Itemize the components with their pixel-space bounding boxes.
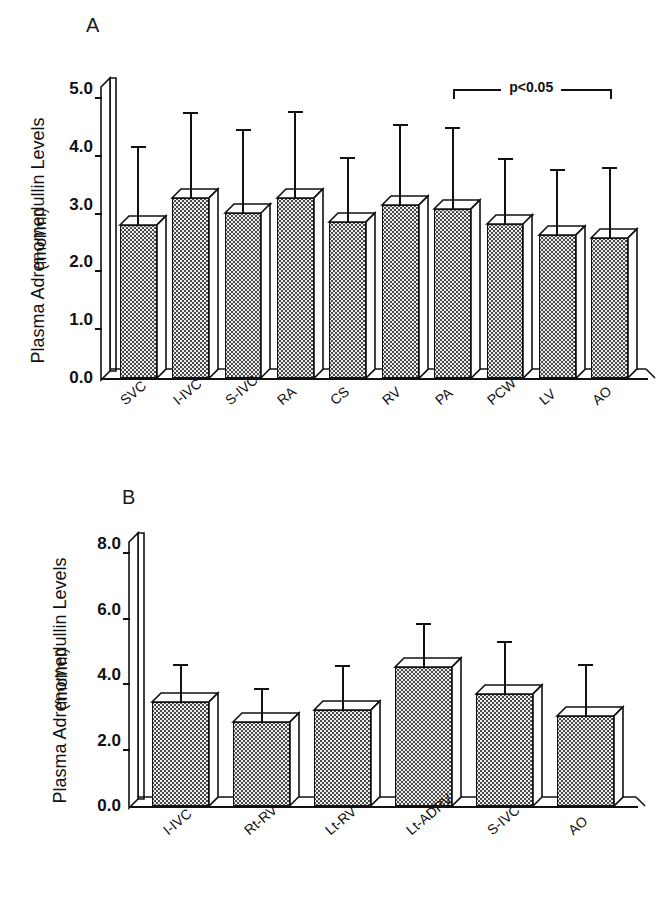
significance-bracket-line-right <box>561 89 610 91</box>
bar-front-face <box>487 224 524 378</box>
panel-b: B Plasma Adrenomedullin Levels (fmol/ml)… <box>0 450 657 901</box>
error-bar-stem <box>556 169 558 235</box>
error-bar-stem <box>423 623 425 667</box>
bar[interactable] <box>233 722 290 806</box>
bar-front-face <box>395 667 452 806</box>
panel-a: A Plasma Adrenomedullin Levels (fmol/ml)… <box>0 0 657 450</box>
error-bar-stem <box>504 158 506 223</box>
bar[interactable] <box>382 205 419 378</box>
bar[interactable] <box>120 225 157 378</box>
y-axis-tick-label: 2.0 <box>97 731 121 751</box>
bar-side-face <box>371 701 380 806</box>
error-bar-cap <box>445 127 460 129</box>
bar-front-face <box>172 198 209 378</box>
error-bar-stem <box>294 111 296 198</box>
y-axis-wall <box>101 78 118 382</box>
error-bar-cap <box>602 167 617 169</box>
bar-side-face <box>533 685 542 806</box>
bar[interactable] <box>172 198 209 378</box>
bar[interactable] <box>329 222 366 378</box>
error-bar-stem <box>585 664 587 716</box>
bar-side-face <box>157 216 166 378</box>
bar-front-face <box>329 222 366 378</box>
error-bar-stem <box>609 167 611 238</box>
bar-side-face <box>471 200 480 378</box>
y-axis-tick-mark <box>95 97 102 99</box>
bar-front-face <box>591 238 628 378</box>
x-axis-tick-label: I-IVC <box>159 805 194 838</box>
bar-side-face <box>452 658 461 806</box>
bar[interactable] <box>476 694 533 806</box>
y-axis-tick-mark <box>95 155 102 157</box>
bar[interactable] <box>434 209 471 378</box>
x-axis-tick-label: CS <box>327 383 352 408</box>
x-axis-tick-label: AO <box>564 813 590 838</box>
y-axis-tick-mark <box>95 213 102 215</box>
significance-bracket-line-left <box>453 89 502 91</box>
x-axis-tick-label: RV <box>379 384 404 409</box>
y-axis-tick-mark <box>123 552 130 554</box>
bar-front-face <box>277 198 314 378</box>
error-bar-cap <box>335 665 350 667</box>
plot-area-a: 0.01.02.03.04.05.0SVCI-IVCS-IVCRACSRVPAP… <box>0 0 657 450</box>
y-axis-tick-mark <box>123 618 130 620</box>
y-axis-tick-label: 8.0 <box>97 534 121 554</box>
bar[interactable] <box>487 224 524 378</box>
bar-side-face <box>523 215 532 378</box>
bar-front-face <box>476 694 533 806</box>
error-bar-cap <box>288 111 303 113</box>
bar-front-face <box>539 235 576 378</box>
bar-side-face <box>209 189 218 378</box>
p-value-label: p<0.05 <box>509 79 553 95</box>
bar[interactable] <box>557 716 614 806</box>
bar-side-face <box>209 693 218 806</box>
bar[interactable] <box>539 235 576 378</box>
bar-front-face <box>382 205 419 378</box>
bar[interactable] <box>152 702 209 806</box>
x-axis-tick-label: RA <box>274 383 299 408</box>
bar-side-face <box>576 226 585 378</box>
bar[interactable] <box>591 238 628 378</box>
y-axis-tick-label: 1.0 <box>69 310 93 330</box>
bar[interactable] <box>225 213 262 378</box>
error-bar-stem <box>342 665 344 710</box>
plot-area-b: 0.02.04.06.08.0I-IVCRt-RVLt-RVLt-ADRVS-I… <box>0 450 657 901</box>
error-bar-cap <box>550 169 565 171</box>
bar-front-face <box>314 710 371 806</box>
bar[interactable] <box>395 667 452 806</box>
error-bar-stem <box>347 157 349 222</box>
significance-bracket-stem-right <box>610 89 612 99</box>
error-bar-cap <box>416 623 431 625</box>
bar-front-face <box>152 702 209 806</box>
y-axis-tick-label: 0.0 <box>69 368 93 388</box>
error-bar-cap <box>173 664 188 666</box>
error-bar-stem <box>137 146 139 225</box>
error-bar-cap <box>497 641 512 643</box>
bar[interactable] <box>277 198 314 378</box>
bar[interactable] <box>314 710 371 806</box>
error-bar-stem <box>190 112 192 198</box>
error-bar-stem <box>399 124 401 205</box>
error-bar-cap <box>254 688 269 690</box>
significance-bracket-stem-left <box>453 89 455 99</box>
error-bar-cap <box>131 146 146 148</box>
bar-front-face <box>557 716 614 806</box>
bar-front-face <box>233 722 290 806</box>
error-bar-stem <box>504 641 506 694</box>
y-axis-tick-label: 4.0 <box>97 665 121 685</box>
y-axis-tick-label: 5.0 <box>69 79 93 99</box>
y-axis-tick-mark <box>95 328 102 330</box>
error-bar-cap <box>393 124 408 126</box>
x-axis-tick-label: SVC <box>117 377 149 408</box>
error-bar-cap <box>236 129 251 131</box>
x-axis-tick-label: AO <box>589 383 615 408</box>
bar-front-face <box>225 213 262 378</box>
error-bar-cap <box>578 664 593 666</box>
error-bar-stem <box>261 688 263 722</box>
y-axis-tick-label: 4.0 <box>69 137 93 157</box>
bar-side-face <box>290 713 299 806</box>
y-axis-tick-mark <box>95 270 102 272</box>
bar-side-face <box>314 189 323 378</box>
y-axis-tick-mark <box>123 749 130 751</box>
y-axis-tick-label: 0.0 <box>97 796 121 816</box>
